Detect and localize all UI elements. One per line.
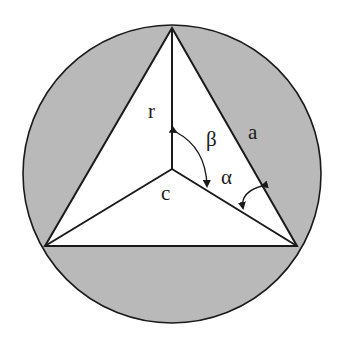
triangle-in-circle-diagram: r β a α c <box>0 0 342 338</box>
label-alpha: α <box>221 165 232 189</box>
label-beta: β <box>206 127 217 151</box>
diagram-canvas: r β a α c <box>0 0 342 338</box>
label-c: c <box>161 181 170 205</box>
label-r: r <box>148 99 155 123</box>
label-a: a <box>248 120 258 144</box>
